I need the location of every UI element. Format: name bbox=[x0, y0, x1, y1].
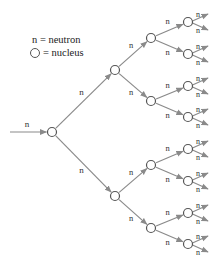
chain-reaction-diagram: n = neutron = nucleus nnnnnnnnnnnnnnnnnn… bbox=[0, 0, 219, 260]
neutron-label: n bbox=[196, 185, 200, 194]
neutron-arrow bbox=[193, 14, 209, 21]
neutron-label: n bbox=[165, 207, 170, 217]
nucleus-node bbox=[184, 50, 193, 59]
neutron-arrow bbox=[193, 236, 209, 243]
nucleus-node bbox=[184, 18, 193, 27]
neutron-label: n bbox=[129, 87, 134, 97]
neutron-arrow bbox=[193, 182, 209, 189]
neutron-label: n bbox=[196, 90, 200, 99]
neutron-label: n bbox=[196, 74, 200, 83]
neutron-arrow bbox=[193, 109, 209, 116]
neutron-label: n bbox=[129, 213, 134, 223]
nucleus-node bbox=[147, 97, 156, 106]
neutron-arrow bbox=[56, 136, 111, 192]
neutron-arrow bbox=[56, 74, 111, 128]
neutron-arrow bbox=[193, 118, 209, 125]
neutron-label: n bbox=[196, 105, 200, 114]
neutron-arrow bbox=[193, 150, 209, 157]
nucleus-node bbox=[184, 113, 193, 122]
neutron-label: n bbox=[165, 237, 170, 247]
incoming-neutron-label: n bbox=[25, 119, 30, 129]
neutron-label: n bbox=[165, 47, 170, 57]
nucleus-node bbox=[48, 128, 57, 137]
neutron-label: n bbox=[196, 153, 200, 162]
neutron-label: n bbox=[196, 121, 200, 130]
neutron-arrow bbox=[193, 87, 209, 94]
neutron-label: n bbox=[165, 174, 170, 184]
neutron-arrow bbox=[193, 78, 209, 85]
nucleus-node bbox=[184, 177, 193, 186]
neutron-arrow bbox=[193, 55, 209, 62]
neutron-arrow bbox=[193, 205, 209, 212]
neutron-arrow bbox=[156, 215, 183, 226]
nucleus-node bbox=[147, 224, 156, 233]
neutron-label: n bbox=[165, 143, 170, 153]
neutron-arrow bbox=[156, 88, 183, 99]
neutron-arrow bbox=[193, 141, 209, 148]
nucleus-node bbox=[184, 82, 193, 91]
nucleus-node bbox=[147, 34, 156, 43]
neutron-label: n bbox=[196, 137, 200, 146]
neutron-arrow bbox=[193, 245, 209, 252]
neutron-label: n bbox=[79, 87, 84, 97]
neutron-label: n bbox=[165, 110, 170, 120]
nucleus-node bbox=[147, 161, 156, 170]
neutron-arrow bbox=[193, 23, 209, 30]
neutron-label: n bbox=[196, 217, 200, 226]
neutron-label: n bbox=[129, 167, 134, 177]
neutron-arrow bbox=[193, 173, 209, 180]
neutron-label: n bbox=[129, 40, 134, 50]
neutron-label: n bbox=[196, 42, 200, 51]
neutron-label: n bbox=[196, 248, 200, 257]
neutron-arrow bbox=[193, 46, 209, 53]
neutron-label: n bbox=[79, 165, 84, 175]
neutron-label: n bbox=[196, 26, 200, 35]
neutron-arrow bbox=[193, 214, 209, 221]
nucleus-node bbox=[184, 240, 193, 249]
neutron-label: n bbox=[196, 201, 200, 210]
branching-tree: nnnnnnnnnnnnnnnnnnnnnnnnnnnnnnn bbox=[0, 0, 219, 260]
neutron-label: n bbox=[196, 169, 200, 178]
nucleus-node bbox=[184, 145, 193, 154]
nucleus-node bbox=[184, 209, 193, 218]
neutron-label: n bbox=[196, 58, 200, 67]
neutron-label: n bbox=[165, 16, 170, 26]
neutron-label: n bbox=[196, 232, 200, 241]
neutron-label: n bbox=[165, 80, 170, 90]
nucleus-node bbox=[111, 66, 120, 75]
nucleus-node bbox=[111, 192, 120, 201]
neutron-label: n bbox=[196, 10, 200, 19]
